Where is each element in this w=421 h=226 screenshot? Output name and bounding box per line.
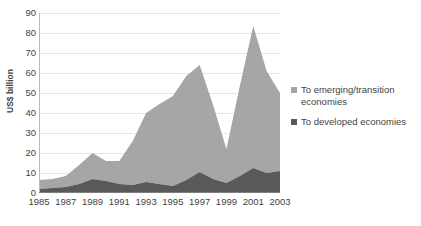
y-tick-label: 90 [14,8,36,18]
x-axis-tick-labels: 1985198719891991199319951997199920012003 [39,197,280,213]
legend-swatch-icon [291,119,297,125]
x-tick-label: 2001 [243,197,264,207]
legend-swatch-icon [291,87,297,93]
legend-item[interactable]: To developed economies [291,116,419,128]
x-tick-label: 1997 [189,197,210,207]
y-tick-label: 30 [14,128,36,138]
y-tick-label: 20 [14,148,36,158]
y-tick-label: 80 [14,28,36,38]
area-chart: US$ billion 0102030405060708090 19851987… [0,0,421,226]
x-tick-label: 1989 [82,197,103,207]
x-tick-label: 2003 [269,197,290,207]
x-tick-label: 1985 [28,197,49,207]
x-tick-label: 1995 [162,197,183,207]
legend-label-line2: economies [301,96,347,107]
x-tick-label: 1987 [55,197,76,207]
legend-label: To emerging/transitioneconomies [301,84,394,107]
plot-area [39,13,280,193]
plot-svg [39,13,280,193]
y-axis-tick-labels: 0102030405060708090 [14,0,36,226]
y-tick-label: 40 [14,108,36,118]
series-areas [39,26,280,193]
y-tick-label: 60 [14,68,36,78]
legend-item[interactable]: To emerging/transitioneconomies [291,84,419,107]
y-tick-label: 70 [14,48,36,58]
x-tick-label: 1993 [136,197,157,207]
y-tick-label: 50 [14,88,36,98]
x-tick-label: 1991 [109,197,130,207]
legend-label: To developed economies [301,116,406,128]
chart-legend: To emerging/transitioneconomiesTo develo… [291,84,419,137]
series-area [39,26,280,189]
x-tick-label: 1999 [216,197,237,207]
y-tick-label: 10 [14,168,36,178]
